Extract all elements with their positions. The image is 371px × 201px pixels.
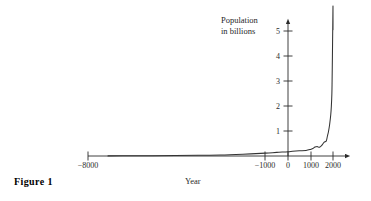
y-axis-title-line1: Population — [221, 15, 258, 26]
y-tick-label-1: 1 — [268, 127, 280, 136]
x-tick-label-0: 0 — [286, 161, 290, 170]
x-tick-label-neg8000: −8000 — [78, 161, 99, 170]
x-tick-label-1000: 1000 — [303, 161, 319, 170]
x-tick-label-neg1000: −1000 — [255, 161, 276, 170]
x-axis-title: Year — [185, 176, 201, 187]
y-axis-title-line2: in billions — [221, 26, 258, 37]
x-tick-label-2000: 2000 — [325, 161, 341, 170]
y-tick-label-3: 3 — [268, 77, 280, 86]
population-chart-plot — [0, 0, 371, 201]
figure-population-growth: Population in billions Year Figure 1 −80… — [0, 0, 371, 201]
y-tick-label-5: 5 — [268, 27, 280, 36]
y-tick-label-4: 4 — [268, 52, 280, 61]
y-axis-title: Population in billions — [221, 15, 258, 36]
y-tick-label-2: 2 — [268, 102, 280, 111]
figure-caption: Figure 1 — [14, 176, 53, 189]
